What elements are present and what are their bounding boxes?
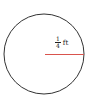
radius-label: 1 4 ft bbox=[55, 36, 68, 49]
radius-fraction: 1 4 bbox=[55, 36, 61, 49]
radius-unit: ft bbox=[63, 39, 68, 47]
circle-diagram bbox=[0, 0, 86, 95]
fraction-denominator: 4 bbox=[56, 43, 60, 49]
